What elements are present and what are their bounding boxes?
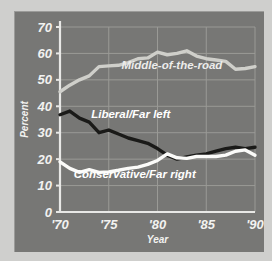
series-label: Middle-of-the-road	[121, 59, 223, 71]
y-tick-label: 30	[38, 125, 53, 140]
x-tick-label: '90	[246, 217, 264, 232]
y-tick-label: 70	[38, 20, 53, 35]
series-label: Conservative/Far right	[74, 168, 197, 180]
y-tick-label: 60	[38, 46, 53, 61]
x-tick-label: '85	[197, 217, 215, 232]
chart-figure: 010203040506070'70'75'80'85'90YearPercen…	[0, 0, 272, 261]
x-tick-label: '80	[149, 217, 167, 232]
series-label: Liberal/Far left	[91, 108, 171, 120]
x-tick-label: '70	[51, 217, 69, 232]
y-tick-label: 40	[37, 99, 53, 114]
x-tick-label: '75	[100, 217, 118, 232]
line-chart: 010203040506070'70'75'80'85'90YearPercen…	[14, 11, 264, 252]
y-tick-label: 50	[38, 72, 53, 87]
y-axis-title: Percent	[19, 100, 30, 137]
y-tick-label: 10	[38, 178, 53, 193]
y-tick-label: 20	[37, 152, 53, 167]
x-axis-title: Year	[147, 234, 169, 245]
chart-panel: 010203040506070'70'75'80'85'90YearPercen…	[14, 11, 264, 252]
